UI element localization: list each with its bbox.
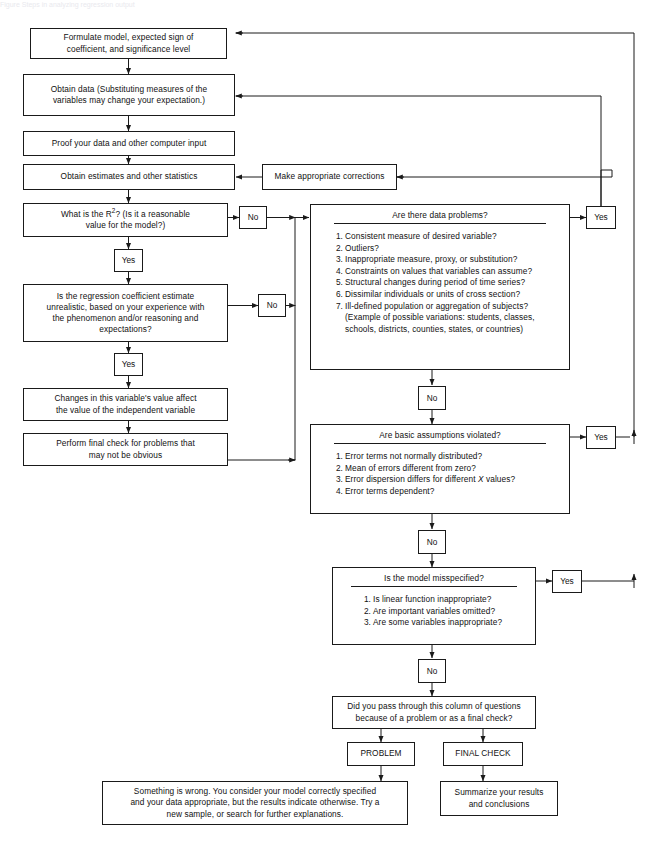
tag-yes-misspecified-label: Yes <box>560 577 574 585</box>
flowchart-canvas: Figure Steps in analyzing regression out… <box>0 0 659 846</box>
list-item: 1.Consistent measure of desired variable… <box>333 231 569 243</box>
list-number: 2. <box>333 463 343 475</box>
tag-no-data-problems: No <box>418 386 446 410</box>
list-text: Ill-defined population or aggregation of… <box>345 301 528 311</box>
wire-corrections-feed <box>397 170 612 177</box>
list-text: Dissimilar individuals or units of cross… <box>345 289 520 299</box>
list-number: 1. <box>333 451 343 463</box>
list-item: 3.Error dispersion differs for different… <box>333 474 569 486</box>
misspecified-title: Is the model misspecified? <box>333 568 535 587</box>
tag-yes-regression: Yes <box>114 353 143 376</box>
list-note-line2: schools, districts, counties, states, or… <box>345 324 569 336</box>
page-header-text: Figure Steps in analyzing regression out… <box>0 1 135 8</box>
list-item: 7.Ill-defined population or aggregation … <box>333 301 569 336</box>
list-number: 3. <box>333 474 343 486</box>
box-column-question: Did you pass through this column of ques… <box>332 696 536 729</box>
list-number: 4. <box>333 486 343 498</box>
tag-no-misspecified-label: No <box>427 667 438 675</box>
regression-line2: unrealistic, based on your experience wi… <box>47 302 205 313</box>
list-number: 7. <box>333 301 343 313</box>
box-something-is-wrong: Something is wrong. You consider your mo… <box>102 781 408 825</box>
tag-yes-assumptions: Yes <box>586 426 616 449</box>
list-text: Consistent measure of desired variable? <box>345 231 497 241</box>
list-text: Inappropriate measure, proxy, or substit… <box>345 254 517 264</box>
list-number: 1. <box>361 594 371 606</box>
list-item: 4.Constraints on values that variables c… <box>333 266 569 278</box>
obtain-data-line2: variables may change your expectation.) <box>53 95 205 106</box>
tag-no-regression: No <box>258 294 286 317</box>
tag-yes-misspecified: Yes <box>552 570 582 593</box>
list-item: 2.Are important variables omitted? <box>361 606 535 618</box>
list-text: Are some variables inappropriate? <box>373 617 502 627</box>
changes-line1: Changes in this variable's value affect <box>54 393 196 404</box>
box-basic-assumptions: Are basic assumptions violated? 1.Error … <box>310 424 570 514</box>
list-text: Error terms dependent? <box>345 486 434 496</box>
list-number: 6. <box>333 289 343 301</box>
list-number: 3. <box>333 254 343 266</box>
list-item: 3.Are some variables inappropriate? <box>361 617 535 629</box>
list-text: Outliers? <box>345 243 379 253</box>
list-number: 2. <box>333 243 343 255</box>
misspecified-list: 1.Is linear function inappropriate? 2.Ar… <box>333 587 535 634</box>
box-proof-data: Proof your data and other computer input <box>23 131 235 156</box>
list-text: Constraints on values that variables can… <box>345 266 532 276</box>
list-text: Structural changes during period of time… <box>345 277 525 287</box>
box-regression-coefficient: Is the regression coefficient estimate u… <box>23 284 228 342</box>
list-number: 4. <box>333 266 343 278</box>
box-formulate-model: Formulate model, expected sign of coeffi… <box>30 28 227 59</box>
list-text-post: values? <box>484 474 516 484</box>
tag-no-regression-label: No <box>267 301 278 309</box>
make-corrections-label: Make appropriate corrections <box>275 171 385 182</box>
data-problems-list: 1.Consistent measure of desired variable… <box>311 224 569 340</box>
box-model-misspecified: Is the model misspecified? 1.Is linear f… <box>332 567 536 645</box>
formulate-line2: coefficient, and significance level <box>67 44 191 55</box>
list-number: 1. <box>333 231 343 243</box>
tag-no-r2: No <box>239 206 267 229</box>
list-number: 5. <box>333 277 343 289</box>
something-wrong-line3: new sample, or search for further explan… <box>167 809 344 820</box>
final-check-line2: may not be obvious <box>89 450 162 461</box>
box-changes-in-variable: Changes in this variable's value affect … <box>23 388 228 421</box>
tag-yes-data-problems-label: Yes <box>594 213 608 221</box>
box-perform-final-check: Perform final check for problems that ma… <box>23 433 228 466</box>
list-number: 2. <box>361 606 371 618</box>
box-data-problems: Are there data problems? 1.Consistent me… <box>310 204 570 370</box>
list-item: 2.Outliers? <box>333 243 569 255</box>
something-wrong-line2: and your data appropriate, but the resul… <box>130 797 379 808</box>
list-text: Error terms not normally distributed? <box>345 451 482 461</box>
assumptions-title: Are basic assumptions violated? <box>311 425 569 444</box>
list-item: 4.Error terms dependent? <box>333 486 569 498</box>
something-wrong-line1: Something is wrong. You consider your mo… <box>134 786 376 797</box>
connector-layer <box>0 0 659 846</box>
assumptions-list: 1.Error terms not normally distributed? … <box>311 444 569 502</box>
tag-no-data-problems-label: No <box>427 394 438 402</box>
box-make-corrections: Make appropriate corrections <box>262 164 397 190</box>
final-check-label: FINAL CHECK <box>455 748 510 759</box>
summarize-line1: Summarize your results <box>455 787 544 798</box>
formulate-line1: Formulate model, expected sign of <box>63 32 193 43</box>
column-question-line2: because of a problem or as a final check… <box>356 713 513 724</box>
box-r2-question: What is the R2? (Is it a reasonable valu… <box>23 203 228 237</box>
r2-line1: What is the R2? (Is it a reasonable <box>61 209 190 220</box>
tag-yes-assumptions-label: Yes <box>594 433 608 441</box>
list-text: Are important variables omitted? <box>373 606 495 616</box>
list-text: Mean of errors different from zero? <box>345 463 476 473</box>
tag-yes-data-problems: Yes <box>586 206 616 229</box>
r2-text-b: ? (Is it a reasonable <box>115 209 190 219</box>
tag-yes-r2-label: Yes <box>122 256 136 264</box>
list-number: 3. <box>361 617 371 629</box>
proof-data-label: Proof your data and other computer input <box>52 138 207 149</box>
problem-label: PROBLEM <box>360 748 401 759</box>
box-obtain-estimates: Obtain estimates and other statistics <box>23 164 235 190</box>
tag-yes-r2: Yes <box>114 249 143 272</box>
final-check-line1: Perform final check for problems that <box>56 438 195 449</box>
box-summarize-results: Summarize your results and conclusions <box>440 781 558 816</box>
list-item: 1.Is linear function inappropriate? <box>361 594 535 606</box>
tag-no-misspecified: No <box>418 659 446 683</box>
page-header-faint: Figure Steps in analyzing regression out… <box>0 0 659 14</box>
column-question-line1: Did you pass through this column of ques… <box>347 701 520 712</box>
regression-line3: the phenomenon and/or reasoning and <box>53 313 199 324</box>
list-item: 6.Dissimilar individuals or units of cro… <box>333 289 569 301</box>
changes-line2: the value of the independent variable <box>56 405 195 416</box>
list-text-pre: Error dispersion differs for different <box>345 474 478 484</box>
